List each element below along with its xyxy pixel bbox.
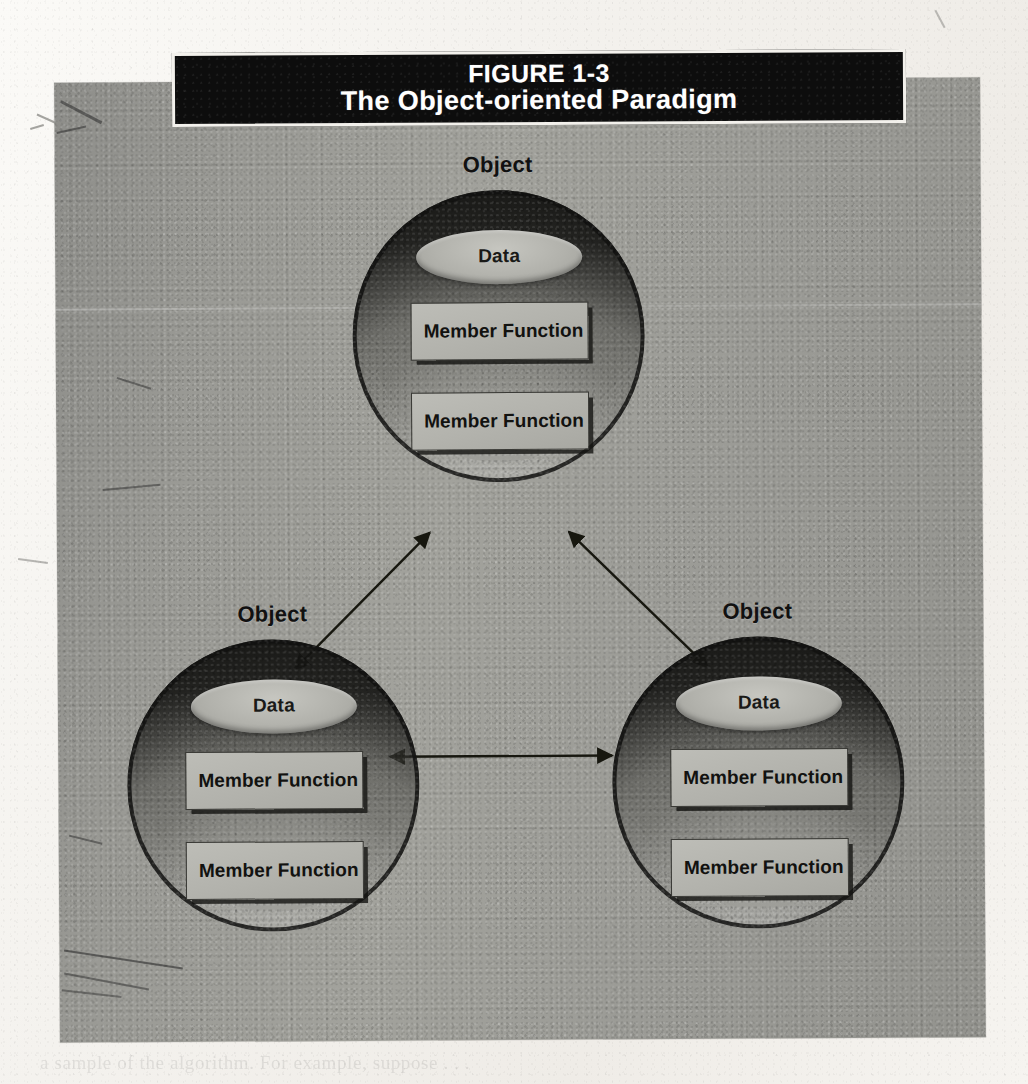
plate-scratch bbox=[69, 835, 103, 845]
member-function-label: Member Function bbox=[671, 766, 843, 789]
object-top-member-function-1[interactable]: Member Function bbox=[410, 302, 588, 361]
plate-scratch bbox=[103, 484, 161, 491]
member-function-label: Member Function bbox=[186, 769, 358, 792]
object-right[interactable]: Object Data Member Function Member Funct… bbox=[602, 598, 914, 994]
figure-caption: The Object-oriented Paradigm bbox=[341, 86, 738, 116]
object-right-label: Object bbox=[602, 598, 912, 626]
object-left-member-function-2[interactable]: Member Function bbox=[186, 841, 364, 900]
figure-panel: Object Data Member Function Member Funct… bbox=[54, 77, 986, 1043]
object-top[interactable]: Object Data Member Function Member Funct… bbox=[343, 151, 655, 547]
object-top-member-function-2[interactable]: Member Function bbox=[411, 392, 589, 451]
object-right-data-label: Data bbox=[738, 691, 780, 713]
object-top-label: Object bbox=[343, 151, 653, 179]
member-function-label: Member Function bbox=[187, 859, 359, 882]
object-right-member-function-2[interactable]: Member Function bbox=[671, 838, 849, 897]
object-top-data-label: Data bbox=[478, 245, 520, 267]
object-left-member-function-1[interactable]: Member Function bbox=[185, 751, 363, 810]
page-bleed-through-text: a sample of the algorithm. For example, … bbox=[40, 1052, 1000, 1078]
object-left[interactable]: Object Data Member Function Member Funct… bbox=[117, 601, 429, 997]
member-function-label: Member Function bbox=[672, 856, 844, 879]
plate-scratch bbox=[56, 126, 86, 134]
member-function-label: Member Function bbox=[412, 410, 584, 433]
object-right-member-function-1[interactable]: Member Function bbox=[670, 748, 848, 807]
member-function-label: Member Function bbox=[412, 320, 584, 343]
plate-scratch bbox=[116, 377, 151, 390]
plate-scratch bbox=[62, 989, 122, 998]
object-left-label: Object bbox=[117, 601, 427, 629]
figure-title-band: FIGURE 1-3 The Object-oriented Paradigm bbox=[172, 49, 906, 127]
figure-number: FIGURE 1-3 bbox=[468, 61, 610, 87]
object-left-data-label: Data bbox=[253, 694, 295, 716]
plate-scratch bbox=[60, 100, 102, 124]
